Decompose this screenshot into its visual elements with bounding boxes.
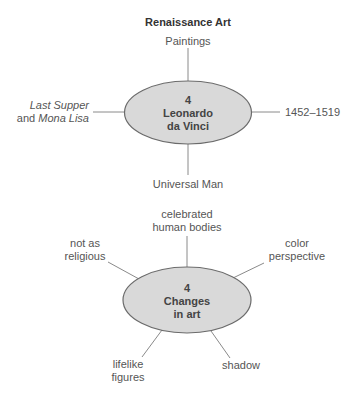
diagram-graphics — [0, 0, 353, 400]
label-celebrated-bodies: celebrated human bodies — [152, 208, 221, 234]
spoke-upper-left — [108, 262, 139, 279]
spoke-lower-right — [211, 331, 230, 358]
label-line: figures — [111, 371, 144, 384]
diagram-title: Renaissance Art — [145, 16, 231, 28]
center-text-changes: 4 Changes in art — [164, 282, 210, 321]
label-not-religious: not as religious — [65, 237, 106, 263]
label-universal-man: Universal Man — [153, 178, 223, 191]
center-number: 4 — [164, 282, 210, 295]
center-line2: da Vinci — [163, 120, 213, 133]
spoke-upper-right — [233, 263, 264, 278]
label-line: lifelike — [111, 358, 144, 371]
center-text-leonardo: 4 Leonardo da Vinci — [163, 94, 213, 133]
label-mona-lisa: Mona Lisa — [38, 112, 89, 124]
label-color-perspective: color perspective — [269, 237, 325, 263]
label-line: human bodies — [152, 221, 221, 234]
label-last-supper: Last Supper — [30, 99, 89, 111]
center-line1: Leonardo — [163, 107, 213, 120]
label-line: religious — [65, 250, 106, 263]
label-line: not as — [65, 237, 106, 250]
center-line1: Changes — [164, 295, 210, 308]
label-works: Last Supper and Mona Lisa — [17, 99, 89, 125]
spoke-lower-left — [142, 330, 162, 357]
center-line2: in art — [164, 308, 210, 321]
label-line: perspective — [269, 250, 325, 263]
label-lifelike-figures: lifelike figures — [111, 358, 144, 384]
center-number: 4 — [163, 94, 213, 107]
label-paintings: Paintings — [165, 35, 210, 48]
label-and: and — [17, 112, 38, 124]
label-line: celebrated — [152, 208, 221, 221]
label-dates: 1452–1519 — [285, 106, 340, 119]
label-shadow: shadow — [222, 359, 260, 372]
label-line: color — [269, 237, 325, 250]
